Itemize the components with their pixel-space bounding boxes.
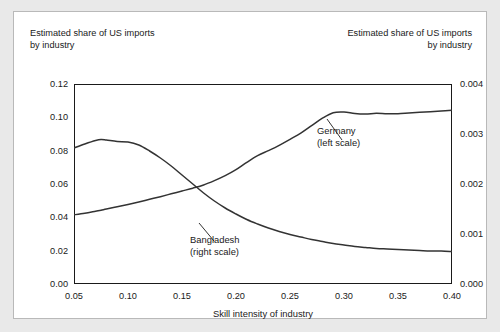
tick-label: 0.10 xyxy=(50,112,68,122)
tick-label: 0.04 xyxy=(50,212,68,222)
tick-label: 0.15 xyxy=(173,291,191,301)
x-axis-tick-labels: 0.050.100.150.200.250.300.350.40 xyxy=(74,291,452,305)
left-axis-caption: Estimated share of US imports by industr… xyxy=(30,28,155,51)
series-lines xyxy=(74,110,452,251)
figure-root: Estimated share of US imports by industr… xyxy=(0,0,500,332)
tick-label: 0.00 xyxy=(50,279,68,289)
tick-label: 0.002 xyxy=(460,179,483,189)
tick-label: 0.40 xyxy=(443,291,461,301)
tick-label: 0.35 xyxy=(389,291,407,301)
tick-label: 0.25 xyxy=(281,291,299,301)
tick-label: 0.000 xyxy=(460,279,483,289)
chart-panel: Estimated share of US imports by industr… xyxy=(13,11,487,319)
plot-svg xyxy=(74,84,452,284)
right-axis-caption: Estimated share of US imports by industr… xyxy=(347,28,472,51)
tick-label: 0.10 xyxy=(119,291,137,301)
tick-label: 0.001 xyxy=(460,229,483,239)
tick-label: 0.20 xyxy=(227,291,245,301)
tick-label: 0.30 xyxy=(335,291,353,301)
left-axis-tick-labels: 0.000.020.040.060.080.100.12 xyxy=(30,84,68,284)
tick-label: 0.02 xyxy=(50,246,68,256)
series-annotation-bangladesh: Bangladesh (right scale) xyxy=(190,234,240,257)
right-axis-tick-labels: 0.0000.0010.0020.0030.004 xyxy=(460,84,500,284)
tick-label: 0.12 xyxy=(50,79,68,89)
tick-label: 0.003 xyxy=(460,129,483,139)
plot-area xyxy=(74,84,452,284)
x-axis-title: Skill intensity of industry xyxy=(74,308,452,319)
tick-label: 0.004 xyxy=(460,79,483,89)
tick-label: 0.06 xyxy=(50,179,68,189)
tick-label: 0.08 xyxy=(50,146,68,156)
tick-label: 0.05 xyxy=(65,291,83,301)
series-annotation-germany: Germany (left scale) xyxy=(317,125,360,148)
